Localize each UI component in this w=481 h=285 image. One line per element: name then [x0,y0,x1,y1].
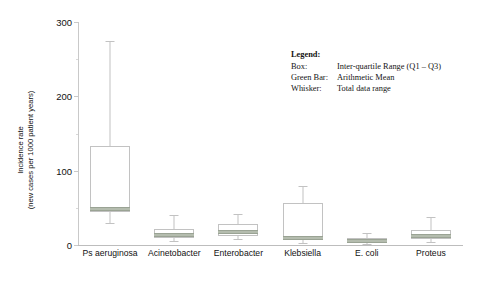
whisker-upper [430,217,431,230]
legend-row: Green Bar:Arithmetic Mean [291,73,441,84]
mean-bar [411,234,451,238]
y-axis-line [78,22,79,245]
y-axis-title-line2: (new cases per 1000 patient years) [26,91,36,210]
x-label-ps-aeruginosa: Ps aeruginosa [83,248,138,258]
legend-title: Legend: [291,50,441,61]
whisker-cap-lower [426,242,435,243]
whisker-cap-upper [426,217,435,218]
whisker-cap-lower [298,243,307,244]
legend-value: Arithmetic Mean [337,73,441,84]
legend-key: Box: [291,62,337,73]
whisker-upper [110,41,111,147]
legend-value: Inter-quartile Range (Q1 – Q3) [337,62,441,73]
whisker-cap-upper [106,41,115,42]
mean-bar [90,207,130,211]
iqr-box [90,146,130,211]
legend-row: Whisker:Total data range [291,84,441,95]
x-label-acinetobacter: Acinetobacter [148,248,201,258]
boxplot-figure: Incidence rate (new cases per 1000 patie… [0,0,481,285]
mean-bar [283,236,323,240]
x-label-enterobacter: Enterobacter [214,248,263,258]
y-minor-tick-150 [76,134,78,135]
x-label-e-coli: E. coli [355,248,378,258]
whisker-cap-lower [234,239,243,240]
y-tick-300 [74,22,78,23]
y-tick-label-0: 0 [67,240,72,251]
iqr-box [283,203,323,239]
whisker-cap-lower [362,244,371,245]
y-tick-0 [74,245,78,246]
whisker-upper [238,214,239,224]
y-axis-title: Incidence rate (new cases per 1000 patie… [14,60,38,240]
whisker-cap-lower [106,223,115,224]
mean-bar [347,239,387,243]
whisker-upper [302,186,303,203]
whisker-cap-lower [170,241,179,242]
whisker-cap-upper [298,186,307,187]
boxplot-ps-aeruginosa [90,22,130,245]
y-axis-title-line1: Incidence rate [16,126,26,174]
mean-bar [218,230,258,234]
y-tick-label-300: 300 [56,17,72,28]
legend-key: Green Bar: [291,73,337,84]
legend: Legend: Box:Inter-quartile Range (Q1 – Q… [291,50,441,95]
mean-bar [154,233,194,237]
y-tick-100 [74,171,78,172]
y-tick-200 [74,96,78,97]
legend-rows: Box:Inter-quartile Range (Q1 – Q3)Green … [291,62,441,95]
y-tick-label-200: 200 [56,91,72,102]
legend-row: Box:Inter-quartile Range (Q1 – Q3) [291,62,441,73]
y-tick-label-100: 100 [56,165,72,176]
boxplot-enterobacter [218,22,258,245]
x-label-klebsiella: Klebsiella [284,248,321,258]
whisker-lower [110,212,111,223]
whisker-upper [174,215,175,229]
x-label-proteus: Proteus [416,248,446,258]
legend-key: Whisker: [291,84,337,95]
y-minor-tick-250 [76,59,78,60]
whisker-cap-upper [362,233,371,234]
x-axis-line [78,245,463,246]
y-minor-tick-50 [76,208,78,209]
whisker-cap-upper [170,215,179,216]
legend-value: Total data range [337,84,441,95]
boxplot-acinetobacter [154,22,194,245]
whisker-cap-upper [234,214,243,215]
